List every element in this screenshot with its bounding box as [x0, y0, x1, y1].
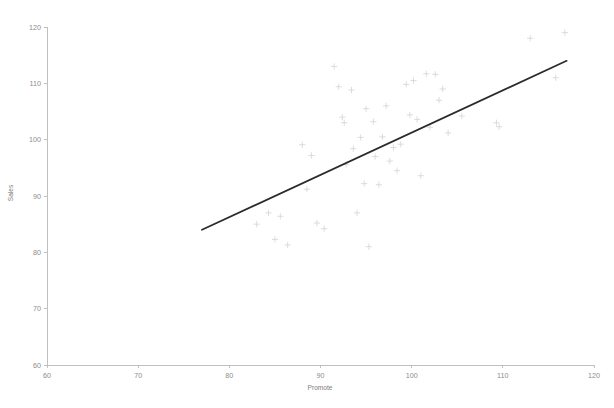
y-axis-title: Sales	[7, 184, 14, 201]
data-point	[496, 124, 502, 130]
data-point	[358, 134, 364, 140]
data-point	[403, 81, 409, 87]
data-point	[314, 220, 320, 226]
data-point	[562, 30, 568, 36]
data-point	[527, 35, 533, 41]
y-tick-label: 60	[33, 361, 41, 370]
regression-line	[202, 61, 567, 230]
data-point	[398, 141, 404, 147]
data-point	[387, 158, 393, 164]
x-tick-label: 80	[225, 371, 233, 380]
data-point	[423, 71, 429, 77]
data-point	[350, 146, 356, 152]
data-point	[459, 113, 465, 119]
y-tick-label: 90	[33, 192, 41, 201]
data-point	[436, 97, 442, 103]
y-tick-label: 80	[33, 248, 41, 257]
data-point	[366, 244, 372, 250]
y-tick-label: 100	[29, 135, 41, 144]
y-tick-label: 70	[33, 304, 41, 313]
data-point	[341, 120, 347, 126]
data-point	[493, 120, 499, 126]
x-tick-label: 90	[317, 371, 325, 380]
data-point	[339, 114, 345, 120]
fit-line	[202, 61, 567, 230]
x-tick-label: 100	[406, 371, 418, 380]
data-point	[308, 152, 314, 158]
data-point	[254, 221, 260, 227]
y-tick-label: 110	[30, 79, 41, 88]
data-point	[363, 106, 369, 112]
data-point	[304, 186, 310, 192]
data-point	[370, 119, 376, 125]
data-point	[440, 86, 446, 92]
data-point	[383, 103, 389, 109]
y-axis: 60708090100110120	[29, 23, 47, 370]
data-point	[410, 77, 416, 83]
data-point	[336, 84, 342, 90]
data-point	[321, 226, 327, 232]
data-point	[348, 87, 354, 93]
data-point	[376, 182, 382, 188]
plot-canvas: 60708090100110120 60708090100110120 Sale…	[0, 0, 614, 408]
data-point	[390, 144, 396, 150]
data-point	[394, 168, 400, 174]
x-axis-title: Promote	[308, 384, 333, 391]
scatter-chart: 60708090100110120 60708090100110120 Sale…	[0, 0, 614, 408]
data-point	[432, 71, 438, 77]
data-point	[418, 173, 424, 179]
data-point	[414, 116, 420, 122]
x-axis: 60708090100110120	[43, 365, 600, 380]
x-tick-label: 120	[588, 371, 600, 380]
x-tick-label: 110	[497, 371, 508, 380]
data-point	[379, 134, 385, 140]
data-point	[265, 210, 271, 216]
data-point	[361, 181, 367, 187]
data-point	[407, 112, 413, 118]
x-tick-label: 60	[43, 371, 51, 380]
data-point	[285, 242, 291, 248]
data-point	[272, 236, 278, 242]
x-tick-label: 70	[134, 371, 142, 380]
data-point	[277, 213, 283, 219]
data-point	[372, 153, 378, 159]
data-point	[354, 210, 360, 216]
data-point	[331, 63, 337, 69]
data-points	[254, 30, 568, 250]
data-point	[553, 75, 559, 81]
data-point	[445, 130, 451, 136]
data-point	[299, 142, 305, 148]
y-tick-label: 120	[29, 23, 41, 32]
